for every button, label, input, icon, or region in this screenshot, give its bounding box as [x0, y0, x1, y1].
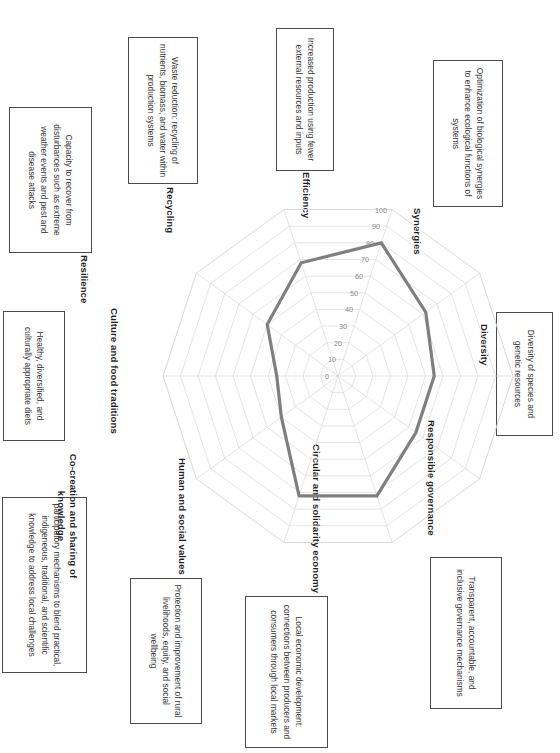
note-circular-and-solidarity-economy: Local economic development: connections … [245, 596, 328, 748]
note-efficiency: Increased production using fewer externa… [276, 28, 334, 171]
axis-title-culture-and-food-traditions: Culture and food traditions [109, 308, 120, 434]
note-recycling-text: Waste reduction: recycling of nutrients,… [145, 43, 182, 178]
note-efficiency-text: Increased production using fewer externa… [293, 34, 317, 165]
axis-title-resilience: Resilience [79, 255, 90, 303]
axis-title-co-creation-and-sharing-of-knowledge: Co-creation and sharing of knowledge [55, 441, 79, 591]
radial-tick-0: 0 [325, 372, 329, 381]
note-resilience-text: Capacity to recover from disturbances su… [26, 113, 75, 247]
note-responsible-governance: Transparent, accountable, and inclusive … [430, 557, 502, 709]
note-responsible-governance-text: Transparent, accountable, and inclusive … [454, 563, 478, 703]
radar-figure: Optimization of biological synergies to … [0, 0, 560, 753]
radial-tick-100: 100 [375, 205, 387, 214]
radial-tick-60: 60 [355, 272, 363, 281]
radar-chart: 0102030405060708090100 [138, 176, 538, 576]
radial-tick-30: 30 [339, 322, 347, 331]
radar-plot [138, 176, 538, 576]
radar-series-outline [267, 243, 434, 496]
radial-tick-20: 20 [334, 338, 342, 347]
note-human-and-social-values-text: Protection and improvement of rural live… [148, 584, 185, 718]
note-culture-and-food-traditions-text: Healthy, diversified, and culturally app… [22, 317, 46, 435]
radial-tick-70: 70 [361, 255, 369, 264]
radial-tick-40: 40 [345, 305, 353, 314]
radial-tick-80: 80 [366, 238, 374, 247]
radial-tick-90: 90 [372, 222, 380, 231]
radial-tick-50: 50 [350, 288, 358, 297]
note-resilience: Capacity to recover from disturbances su… [9, 107, 92, 253]
note-circular-and-solidarity-economy-text: Local economic development: connections … [268, 602, 305, 742]
note-culture-and-food-traditions: Healthy, diversified, and culturally app… [3, 311, 65, 441]
note-recycling: Waste reduction: recycling of nutrients,… [128, 37, 198, 184]
radial-tick-10: 10 [328, 355, 336, 364]
note-human-and-social-values: Protection and improvement of rural live… [130, 578, 202, 724]
